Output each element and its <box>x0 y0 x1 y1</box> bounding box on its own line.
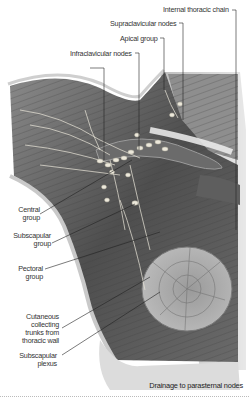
label-cutaneous-collecting-trunks: Cutaneous collecting trunks from thoraci… <box>5 313 59 345</box>
label-pectoral-group: Pectoral group <box>10 265 43 281</box>
dotted-divider <box>0 396 249 397</box>
label-subscapular-group: Subscapular group <box>5 232 51 248</box>
label-internal-thoracic-chain: Internal thoracic chain <box>163 6 229 14</box>
caption-drainage-parasternal: Drainage to parasternal nodes <box>149 381 243 390</box>
label-supraclavicular-nodes: Supraclavicular nodes <box>110 20 177 28</box>
label-central-group: Central group <box>10 206 40 222</box>
label-infraclavicular-nodes: Infraclavicular nodes <box>70 50 132 58</box>
label-subscapular-plexus: Subscapular plexus <box>5 352 57 368</box>
axillary-lymph-node-illustration: Internal thoracic chain Supraclavicular … <box>0 0 249 403</box>
label-apical-group: Apical group <box>120 35 158 43</box>
